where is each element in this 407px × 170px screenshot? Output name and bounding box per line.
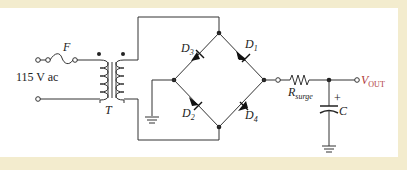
resistor-icon <box>290 75 309 85</box>
d4-label: D4 <box>244 108 258 124</box>
bridge-rectifier-schematic: F 115 V ac T <box>0 0 407 170</box>
fuse-label: F <box>62 40 71 54</box>
ground-icon <box>145 117 159 123</box>
input-terminal-top <box>36 58 51 63</box>
ground-icon <box>322 146 336 152</box>
d2-label: D2 <box>181 106 195 122</box>
diode-d2-icon <box>189 97 202 110</box>
capacitor-plus-label: + <box>334 91 341 105</box>
fuse-icon <box>50 54 77 64</box>
transformer-icon <box>97 52 125 103</box>
capacitor-label: C <box>339 104 348 118</box>
transformer-label: T <box>105 103 113 117</box>
output-label: VOUT <box>361 73 385 89</box>
input-terminal-bottom <box>36 97 100 102</box>
input-voltage-label: 115 V ac <box>16 70 58 84</box>
d3-label: D3 <box>180 41 194 57</box>
resistor-label: Rsurge <box>287 85 313 101</box>
d1-label: D1 <box>244 37 258 53</box>
